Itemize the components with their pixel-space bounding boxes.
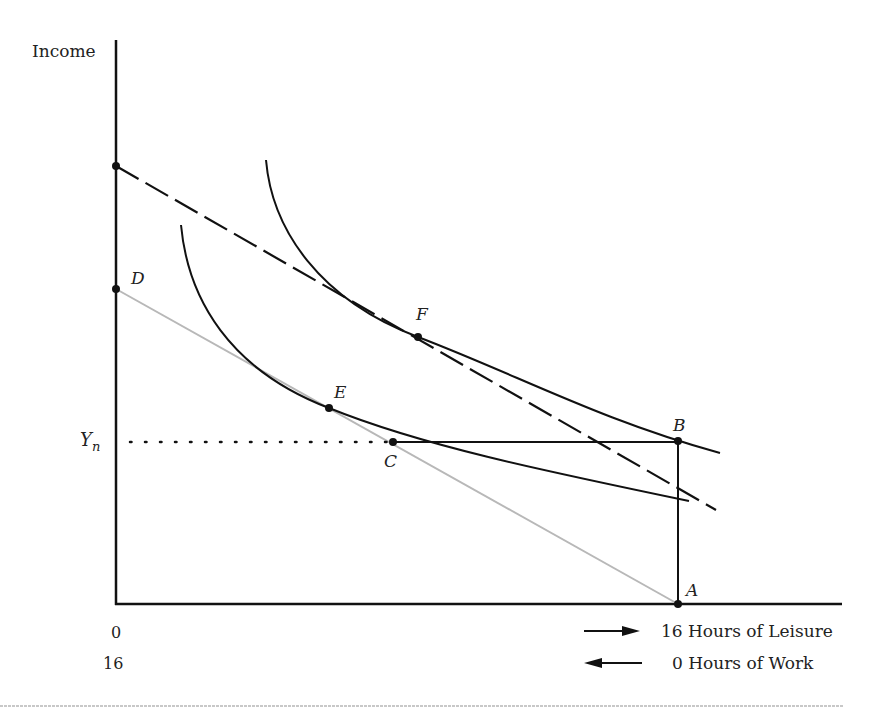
point-e bbox=[325, 404, 333, 412]
label-a: A bbox=[684, 580, 698, 600]
point-y-intercept-dashed bbox=[112, 162, 120, 170]
budget-line-gray bbox=[116, 289, 678, 604]
indifference-curve-lower bbox=[181, 225, 689, 501]
label-f: F bbox=[415, 304, 429, 324]
x-origin-work: 16 bbox=[103, 654, 123, 673]
arrow-right-icon bbox=[584, 626, 640, 636]
label-e: E bbox=[333, 382, 347, 402]
legend-leisure: 16 Hours of Leisure bbox=[661, 621, 833, 641]
x-origin-leisure: 0 bbox=[111, 623, 121, 642]
point-d bbox=[112, 285, 120, 293]
label-c: C bbox=[384, 451, 397, 471]
point-f bbox=[414, 333, 422, 341]
labor-leisure-diagram: D E F C B A Income Yn 0 16 16 Hours of L… bbox=[0, 0, 879, 717]
y-marker-sub: n bbox=[92, 439, 100, 454]
arrow-left-icon bbox=[584, 658, 642, 668]
label-b: B bbox=[672, 415, 686, 435]
label-d: D bbox=[130, 268, 145, 288]
legend-work: 0 Hours of Work bbox=[672, 653, 814, 673]
y-axis-label: Income bbox=[32, 41, 96, 61]
point-b bbox=[674, 437, 682, 445]
point-c bbox=[389, 438, 397, 446]
point-a bbox=[674, 600, 682, 608]
y-marker-label: Yn bbox=[80, 429, 100, 454]
